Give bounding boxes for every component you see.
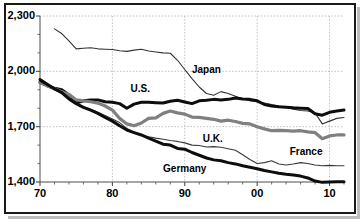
x-tick-label: 70 [20,187,60,199]
series-label-france: France [290,146,323,157]
series-label-japan: Japan [192,64,221,75]
y-tick-label: 1,700 [0,120,35,132]
data-series [40,29,344,182]
x-tick-label: 00 [237,187,277,199]
series-label-us: U.S. [130,83,149,94]
x-tick-label: 90 [165,187,205,199]
series-label-uk: U.K. [203,133,223,144]
x-tick-label: 80 [92,187,132,199]
series-label-germany: Germany [163,163,206,174]
y-tick-label: 1,400 [0,175,35,187]
chart-container: 1,4001,7002,0002,300 7080900010 JapanU.S… [0,0,364,224]
x-tick-label: 10 [310,187,350,199]
y-tick-label: 2,000 [0,64,35,76]
y-tick-label: 2,300 [0,9,35,21]
